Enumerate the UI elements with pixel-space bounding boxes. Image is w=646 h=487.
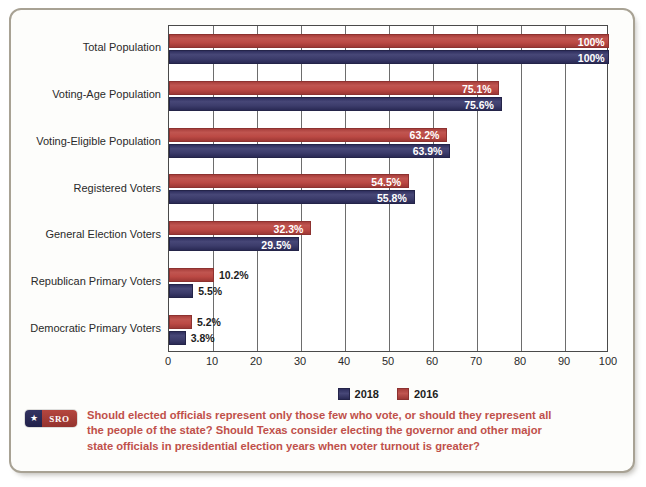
chart-legend: 20182016 xyxy=(168,386,608,402)
x-tick-label: 80 xyxy=(514,355,526,367)
legend-item-2018: 2018 xyxy=(338,388,379,400)
x-tick-label: 30 xyxy=(294,355,306,367)
x-tick-label: 90 xyxy=(558,355,570,367)
category-label: Republican Primary Voters xyxy=(11,275,161,287)
figure-container: Total PopulationVoting-Age PopulationVot… xyxy=(0,0,646,487)
bar-value-label: 55.8% xyxy=(377,193,407,204)
bar-group: 63.2%63.9% xyxy=(169,119,607,166)
bar-value-label: 100% xyxy=(578,37,605,48)
plot-area: 100%100%75.1%75.6%63.2%63.9%54.5%55.8%32… xyxy=(168,25,608,352)
bar-2018 xyxy=(169,144,450,158)
bar-2016 xyxy=(169,34,609,48)
bar-value-label: 75.6% xyxy=(464,100,494,111)
category-label: Voting-Eligible Population xyxy=(11,135,161,147)
bar-value-label: 54.5% xyxy=(371,177,401,188)
chart-area: Total PopulationVoting-Age PopulationVot… xyxy=(9,8,635,473)
bar-value-label: 3.8% xyxy=(191,333,215,344)
legend-swatch-icon xyxy=(338,388,350,400)
bar-group: 32.3%29.5% xyxy=(169,213,607,260)
legend-swatch-icon xyxy=(397,388,409,400)
category-label: Democratic Primary Voters xyxy=(11,322,161,334)
bar-value-label: 10.2% xyxy=(219,270,249,281)
bar-2018 xyxy=(169,331,186,345)
bar-2016 xyxy=(169,81,499,95)
value-axis-labels: 0102030405060708090100 xyxy=(168,355,608,373)
category-label: General Election Voters xyxy=(11,228,161,240)
x-tick-label: 50 xyxy=(382,355,394,367)
star-icon: ★ xyxy=(30,414,38,423)
legend-item-2016: 2016 xyxy=(397,388,438,400)
bar-value-label: 75.1% xyxy=(462,84,492,95)
bar-2018 xyxy=(169,50,609,64)
bar-group: 54.5%55.8% xyxy=(169,166,607,213)
x-tick-label: 20 xyxy=(250,355,262,367)
bar-2018 xyxy=(169,284,193,298)
legend-label: 2018 xyxy=(355,388,379,400)
bar-group: 75.1%75.6% xyxy=(169,73,607,120)
bar-2018 xyxy=(169,97,502,111)
x-tick-label: 0 xyxy=(165,355,171,367)
legend-label: 2016 xyxy=(414,388,438,400)
category-label: Total Population xyxy=(11,41,161,53)
x-tick-label: 10 xyxy=(206,355,218,367)
bar-value-label: 29.5% xyxy=(261,240,291,251)
bar-2016 xyxy=(169,315,192,329)
caption-question-text: Should elected officials represent only … xyxy=(87,408,557,454)
bar-2016 xyxy=(169,128,447,142)
bar-value-label: 63.9% xyxy=(413,146,443,157)
bar-value-label: 100% xyxy=(578,53,605,64)
sro-badge-text-panel: SRO xyxy=(42,410,77,427)
x-tick-label: 40 xyxy=(338,355,350,367)
category-label: Voting-Age Population xyxy=(11,88,161,100)
category-axis-labels: Total PopulationVoting-Age PopulationVot… xyxy=(9,25,161,352)
bar-rows: 100%100%75.1%75.6%63.2%63.9%54.5%55.8%32… xyxy=(169,26,607,351)
sro-badge-star-panel: ★ xyxy=(25,410,42,427)
bar-value-label: 63.2% xyxy=(410,130,440,141)
x-tick-label: 100 xyxy=(599,355,617,367)
x-tick-label: 60 xyxy=(426,355,438,367)
sro-badge-icon: ★ SRO xyxy=(25,410,77,427)
bar-value-label: 32.3% xyxy=(274,224,304,235)
caption-block: ★ SRO Should elected officials represent… xyxy=(25,408,619,454)
bar-value-label: 5.2% xyxy=(197,317,221,328)
x-tick-label: 70 xyxy=(470,355,482,367)
bar-2016 xyxy=(169,268,214,282)
category-label: Registered Voters xyxy=(11,182,161,194)
bar-group: 5.2%3.8% xyxy=(169,306,607,353)
bar-value-label: 5.5% xyxy=(198,286,222,297)
sro-badge-label: SRO xyxy=(49,414,69,424)
bar-group: 10.2%5.5% xyxy=(169,260,607,307)
bar-group: 100%100% xyxy=(169,26,607,73)
